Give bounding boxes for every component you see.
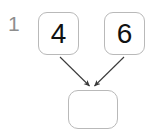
worksheet-diagram-canvas: 1 4 6 [0,0,159,138]
left-addend-value: 4 [51,20,67,48]
arrow-right-to-answer [95,57,125,86]
left-addend-box: 4 [38,12,79,55]
arrow-left-to-answer [60,57,90,86]
right-addend-box: 6 [104,12,145,55]
right-addend-value: 6 [117,20,133,48]
answer-box[interactable] [68,90,118,129]
